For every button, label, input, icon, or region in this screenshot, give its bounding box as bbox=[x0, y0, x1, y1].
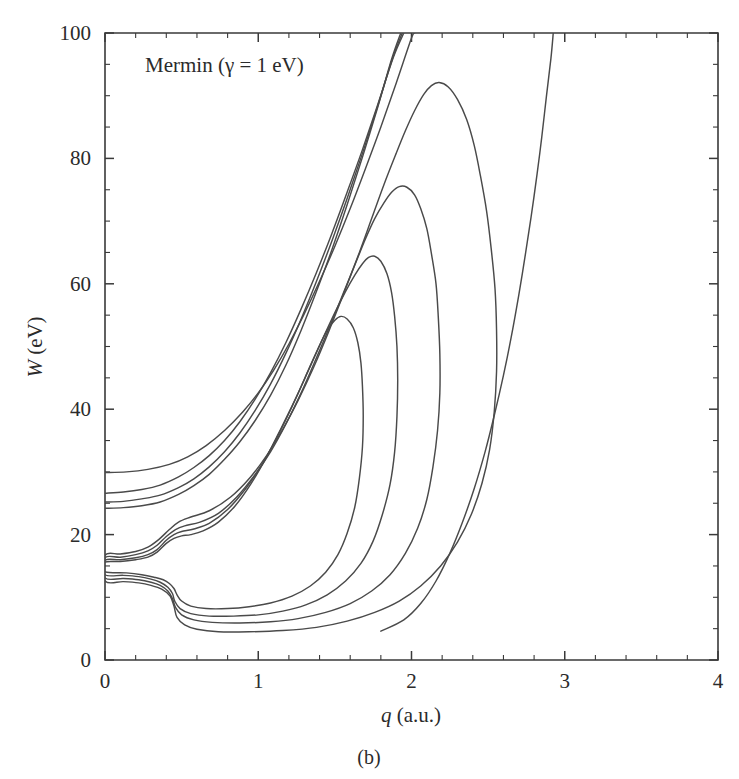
y-tick-label: 100 bbox=[60, 21, 92, 45]
y-tick-label: 0 bbox=[81, 648, 92, 672]
y-tick-label: 40 bbox=[70, 397, 91, 421]
y-tick-label: 20 bbox=[70, 523, 91, 547]
figure-panel: 01234020406080100 Mermin (γ = 1 eV) q (a… bbox=[0, 0, 739, 779]
x-tick-label: 0 bbox=[100, 669, 111, 693]
plot-annotation: Mermin (γ = 1 eV) bbox=[145, 53, 304, 77]
y-axis-title: W (eV) bbox=[23, 316, 47, 377]
x-tick-label: 2 bbox=[406, 669, 417, 693]
x-tick-label: 3 bbox=[560, 669, 571, 693]
y-tick-label: 80 bbox=[70, 146, 91, 170]
x-axis-title: q (a.u.) bbox=[381, 703, 441, 727]
x-tick-label: 4 bbox=[713, 669, 724, 693]
x-tick-label: 1 bbox=[253, 669, 264, 693]
plot-svg: 01234020406080100 Mermin (γ = 1 eV) q (a… bbox=[0, 0, 739, 779]
y-tick-label: 60 bbox=[70, 272, 91, 296]
figure-background bbox=[0, 0, 739, 779]
figure-caption: (b) bbox=[357, 746, 380, 769]
